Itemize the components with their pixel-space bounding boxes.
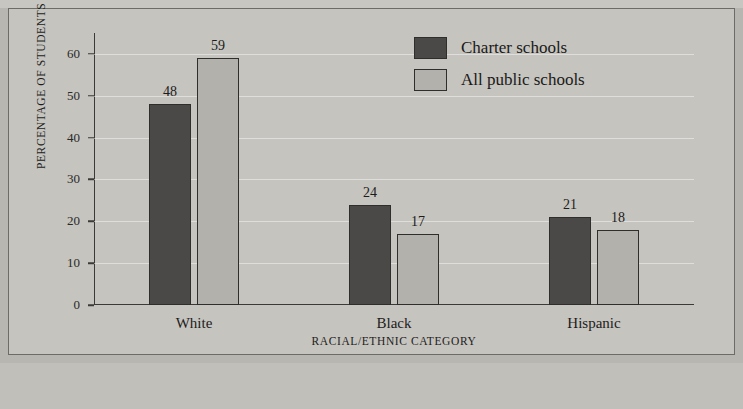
y-tick-mark — [88, 221, 94, 223]
bar-value-label: 48 — [163, 84, 177, 100]
y-tick-label: 60 — [56, 46, 80, 62]
legend-label-charter-schools: Charter schools — [461, 38, 567, 58]
legend: Charter schools All public schools — [414, 37, 664, 101]
y-tick-label: 30 — [56, 171, 80, 187]
legend-label-all-public-schools: All public schools — [461, 70, 585, 90]
y-tick-mark — [88, 53, 94, 55]
legend-item: Charter schools — [414, 37, 664, 59]
y-tick-mark — [88, 262, 94, 264]
x-axis-label: RACIAL/ETHNIC CATEGORY — [94, 335, 694, 347]
bar-value-label: 59 — [211, 38, 225, 54]
y-tick-label: 40 — [56, 130, 80, 146]
bar — [549, 217, 591, 305]
x-tick-label: Black — [377, 315, 412, 332]
y-tick-mark — [88, 137, 94, 139]
bar-value-label: 24 — [363, 185, 377, 201]
bar — [349, 205, 391, 305]
x-tick-label: White — [176, 315, 213, 332]
y-tick-mark — [88, 304, 94, 306]
legend-swatch-all-public-schools — [414, 69, 447, 91]
y-tick-label: 10 — [56, 255, 80, 271]
legend-swatch-charter-schools — [414, 37, 447, 59]
page-background: PERCENTAGE OF STUDENTS RACIAL/ETHNIC CAT… — [0, 0, 743, 409]
chart-figure: PERCENTAGE OF STUDENTS RACIAL/ETHNIC CAT… — [8, 8, 735, 355]
bar — [597, 230, 639, 305]
bottom-band — [0, 363, 743, 409]
y-tick-label: 50 — [56, 88, 80, 104]
y-tick-mark — [88, 95, 94, 97]
bar-value-label: 18 — [611, 210, 625, 226]
bar — [149, 104, 191, 305]
bar-value-label: 21 — [563, 197, 577, 213]
y-tick-label: 0 — [56, 297, 80, 313]
x-tick-label: Hispanic — [567, 315, 620, 332]
top-band — [0, 0, 743, 8]
bar — [397, 234, 439, 305]
y-tick-label: 20 — [56, 213, 80, 229]
y-tick-mark — [88, 179, 94, 181]
y-axis-label: PERCENTAGE OF STUDENTS — [35, 3, 47, 169]
bar-value-label: 17 — [411, 214, 425, 230]
bar — [197, 58, 239, 305]
legend-item: All public schools — [414, 69, 664, 91]
